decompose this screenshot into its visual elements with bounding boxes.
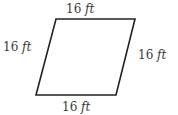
side-length-unit: ft [157,48,166,62]
side-label-top: 16 ft [66,3,94,15]
side-length-unit: ft [22,40,31,54]
side-label-left: 16 ft [3,41,31,53]
rhombus-outline [36,19,135,95]
side-length-value: 16 [138,48,153,62]
side-length-value: 16 [62,100,77,114]
side-length-unit: ft [81,100,90,114]
side-label-right: 16 ft [138,49,166,61]
side-length-value: 16 [66,2,81,16]
side-length-value: 16 [3,40,18,54]
side-length-unit: ft [85,2,94,16]
side-label-bottom: 16 ft [62,101,90,113]
